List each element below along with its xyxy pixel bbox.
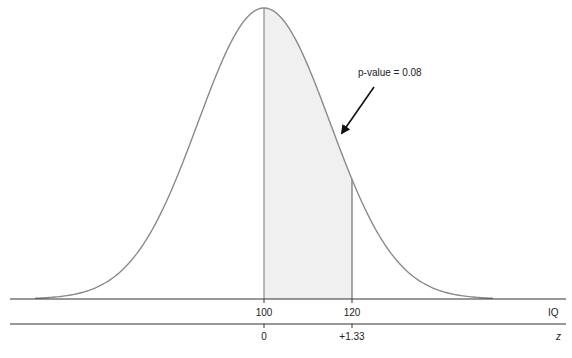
z-tick-label-0: 0: [261, 331, 267, 342]
shaded-area: [264, 8, 352, 299]
iq-tick-label-120: 120: [344, 307, 361, 318]
iq-tick-label-100: 100: [256, 307, 273, 318]
p-value-annotation: p-value = 0.08: [358, 67, 422, 78]
z-axis-name: z: [556, 331, 561, 342]
normal-distribution-chart: [0, 0, 572, 358]
z-tick-label-1-33: +1.33: [339, 331, 364, 342]
annotation-arrow: [342, 87, 374, 133]
iq-axis-name: IQ: [548, 307, 559, 318]
